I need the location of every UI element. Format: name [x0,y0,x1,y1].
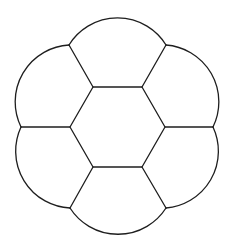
petal-arc-upper-left [15,45,69,127]
petal-arc-top [69,18,166,45]
diagram-canvas [0,0,233,247]
spoke-line-1 [142,45,166,87]
petal-arc-lower-left [16,127,70,208]
spoke-line-4 [70,167,93,208]
hexagon-flower-diagram [0,0,233,247]
petal-arc-upper-right [166,45,219,127]
spoke-line-3 [142,167,166,208]
spoke-line-0 [69,45,93,87]
spoke-lines [21,45,213,208]
petal-arcs [15,18,219,234]
petal-arc-lower-right [166,127,218,208]
petal-arc-bottom [70,208,166,234]
center-hexagon [70,87,165,167]
